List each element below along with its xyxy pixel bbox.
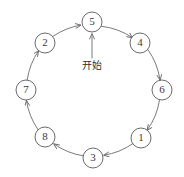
node-3-label: 3 (90, 151, 96, 163)
node-2-label: 2 (42, 36, 48, 48)
edge-6-to-1 (147, 100, 159, 130)
start-annotation: 开始 (82, 34, 102, 71)
edge-8-to-7 (27, 101, 39, 130)
node-2[interactable]: 2 (35, 33, 55, 53)
edge-7-to-2 (27, 51, 38, 80)
node-4-label: 4 (137, 36, 143, 48)
node-group: 5 4 6 1 3 8 (16, 12, 172, 168)
node-7-label: 7 (23, 83, 29, 95)
node-8[interactable]: 8 (35, 127, 55, 147)
node-6[interactable]: 6 (152, 80, 172, 100)
node-8-label: 8 (42, 130, 48, 142)
cycle-diagram: 开始 5 4 6 1 3 (0, 0, 184, 177)
node-5[interactable]: 5 (82, 12, 102, 32)
edge-4-to-6 (148, 50, 160, 80)
edge-1-to-3 (104, 144, 133, 156)
node-5-label: 5 (89, 15, 95, 27)
node-1[interactable]: 1 (131, 128, 151, 148)
node-6-label: 6 (159, 83, 165, 95)
node-1-label: 1 (138, 131, 144, 143)
edge-2-to-5 (53, 25, 81, 36)
node-7[interactable]: 7 (16, 80, 36, 100)
node-3[interactable]: 3 (83, 148, 103, 168)
start-label: 开始 (82, 59, 102, 71)
cycle-diagram-canvas: 开始 5 4 6 1 3 (0, 0, 184, 177)
node-4[interactable]: 4 (130, 33, 150, 53)
edge-5-to-4 (102, 26, 133, 37)
edge-3-to-8 (54, 144, 83, 156)
